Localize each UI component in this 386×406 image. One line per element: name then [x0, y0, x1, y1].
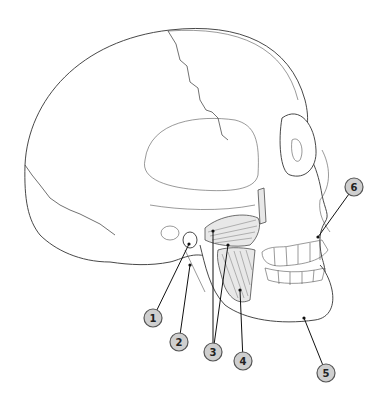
label-2-text: 2 — [176, 337, 183, 348]
label-6-text: 6 — [351, 182, 358, 193]
label-5: 5 — [317, 364, 335, 382]
label-5-text: 5 — [323, 368, 330, 379]
skull-diagram: 1 2 3 4 5 6 — [0, 0, 386, 406]
label-6: 6 — [345, 178, 363, 196]
label-3: 3 — [204, 343, 222, 361]
label-4: 4 — [234, 352, 252, 370]
label-3-text: 3 — [210, 347, 217, 358]
label-4-text: 4 — [240, 356, 247, 367]
label-1-text: 1 — [150, 313, 157, 324]
label-1: 1 — [144, 309, 162, 327]
label-2: 2 — [170, 333, 188, 351]
skull-drawing — [25, 28, 333, 321]
